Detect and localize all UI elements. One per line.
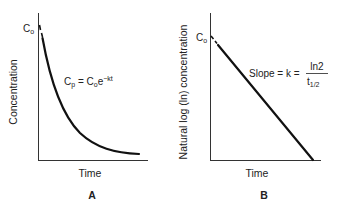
pharmacokinetics-figure: Co Cp = Coe−kt Concentration Time A Co S… — [0, 0, 338, 210]
panel-a-extrapolation-dash — [40, 25, 43, 37]
panel-b-c0-label: Co — [196, 32, 207, 44]
panel-b: Co Slope = k = ln2 t1/2 Natural log (ln)… — [177, 13, 328, 201]
panel-a: Co Cp = Coe−kt Concentration Time A — [7, 13, 148, 201]
panel-b-x-axis-label: Time — [246, 167, 269, 179]
panel-b-slope-label: Slope = k = — [249, 68, 302, 79]
panel-b-y-axis-label: Natural log (ln) concentration — [177, 24, 189, 159]
panel-b-extrapolation-dash — [211, 36, 217, 44]
panel-a-y-axis-label: Concentration — [7, 59, 19, 125]
panel-a-decay-curve — [43, 38, 140, 154]
panel-b-log-line — [218, 45, 313, 160]
panel-b-letter: B — [260, 189, 268, 201]
panel-b-slope-numerator: ln2 — [310, 61, 324, 72]
panel-a-letter: A — [88, 189, 96, 201]
panel-b-slope-denominator: t1/2 — [307, 76, 320, 88]
panel-a-c0-label: Co — [23, 23, 34, 35]
panel-a-x-axis-label: Time — [79, 167, 102, 179]
panel-a-equation: Cp = Coe−kt — [64, 75, 113, 89]
